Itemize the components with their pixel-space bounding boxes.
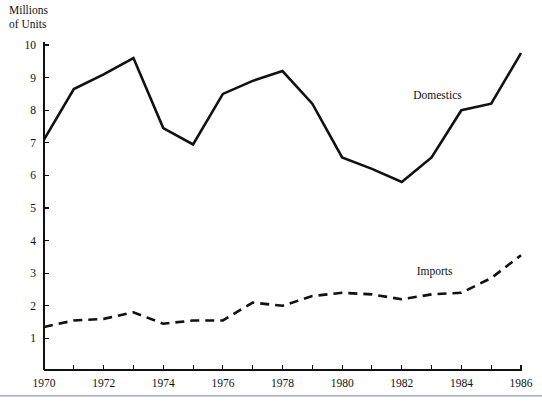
series-line-domestics — [44, 53, 521, 182]
x-axis: 197019721974197619781980198219841986 — [33, 365, 533, 389]
y-tick-label: 8 — [30, 104, 36, 116]
x-tick-label: 1976 — [211, 377, 234, 389]
y-tick-label: 2 — [30, 300, 36, 312]
y-tick-label: 4 — [30, 235, 36, 247]
y-tick-label: 7 — [30, 137, 36, 149]
y-tick-label: 1 — [30, 332, 36, 344]
y-axis: 12345678910 — [25, 39, 50, 370]
x-tick-label: 1974 — [152, 377, 175, 389]
y-tick-label: 9 — [30, 72, 36, 84]
x-tick-label: 1972 — [92, 377, 115, 389]
x-tick-label: 1984 — [450, 377, 473, 389]
x-tick-label: 1986 — [510, 377, 533, 389]
x-tick-label: 1980 — [331, 377, 354, 389]
x-tick-label: 1982 — [390, 377, 413, 389]
y-axis-title-line2: of Units — [9, 18, 47, 30]
y-tick-label: 6 — [30, 169, 36, 181]
series-label-imports: Imports — [417, 265, 453, 278]
series-annotations: DomesticsImports — [413, 89, 462, 278]
series-label-domestics: Domestics — [413, 89, 462, 101]
y-axis-title-line1: Millions — [9, 4, 49, 16]
y-tick-label: 10 — [25, 39, 37, 51]
y-axis-title: Millions of Units — [9, 4, 49, 30]
x-tick-label: 1978 — [271, 377, 294, 389]
y-tick-label: 5 — [30, 202, 36, 214]
line-chart: Millions of Units 12345678910 1970197219… — [0, 0, 542, 408]
y-tick-label: 3 — [30, 267, 36, 279]
footer-divider — [0, 395, 542, 397]
chart-container: Millions of Units 12345678910 1970197219… — [0, 0, 542, 408]
x-tick-label: 1970 — [33, 377, 56, 389]
